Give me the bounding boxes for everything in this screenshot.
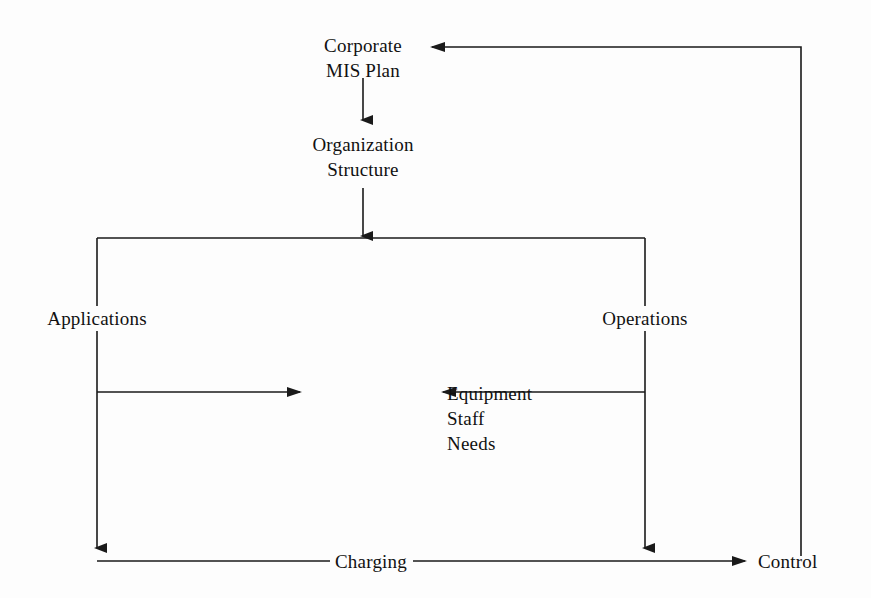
node-needs-label: Needs xyxy=(447,431,532,456)
node-control-label: Control xyxy=(758,549,817,574)
node-staff-label: Staff xyxy=(447,406,532,431)
node-organization-structure-line-1: Organization xyxy=(307,132,418,157)
node-charging: Charging xyxy=(330,549,412,574)
edge-control-to-corporate xyxy=(432,47,801,556)
node-equipment-staff-needs: Equipment Staff Needs xyxy=(447,381,532,456)
node-organization-structure-line-2: Structure xyxy=(307,157,418,182)
node-applications: Applications xyxy=(42,306,152,331)
node-charging-label: Charging xyxy=(330,549,412,574)
node-control: Control xyxy=(758,549,817,574)
node-corporate-mis-plan-line-1: Corporate xyxy=(324,33,402,58)
node-equipment-label: Equipment xyxy=(447,381,532,406)
node-operations: Operations xyxy=(597,306,692,331)
flow-diagram: Corporate MIS Plan Organization Structur… xyxy=(0,0,871,598)
node-corporate-mis-plan: Corporate MIS Plan xyxy=(324,33,402,83)
node-operations-label: Operations xyxy=(597,306,692,331)
node-corporate-mis-plan-line-2: MIS Plan xyxy=(324,58,402,83)
diagram-connectors xyxy=(0,0,871,598)
node-organization-structure: Organization Structure xyxy=(307,132,418,182)
node-applications-label: Applications xyxy=(42,306,152,331)
